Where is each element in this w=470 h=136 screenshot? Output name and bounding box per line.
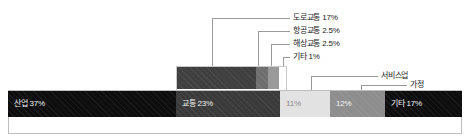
bar-segment-other-label: 기타 17% xyxy=(385,100,422,108)
leader-line-home-horizontal xyxy=(361,85,407,86)
transport-breakdown-bar xyxy=(177,67,286,89)
sub-segment-other[interactable] xyxy=(279,67,286,89)
leader-line-road-vertical xyxy=(212,18,213,66)
leader-line-service-horizontal xyxy=(311,76,378,77)
callout-label-service: 서비스업 xyxy=(381,72,408,80)
leader-line-air-horizontal xyxy=(258,31,290,32)
leader-line-air-vertical xyxy=(258,31,259,66)
sub-segment-sea[interactable] xyxy=(268,67,280,89)
callout-label-other-transport: 기타 1% xyxy=(293,53,320,61)
sub-segment-road[interactable] xyxy=(177,67,256,89)
bar-segment-service[interactable]: 11% xyxy=(280,91,330,117)
bar-segment-transport-label: 교통 23% xyxy=(176,100,213,108)
leader-line-other-transport-horizontal xyxy=(283,57,290,58)
bar-segment-transport[interactable]: 교통 23% xyxy=(176,91,280,117)
bar-segment-other[interactable]: 기타 17% xyxy=(385,91,462,117)
sub-segment-air[interactable] xyxy=(256,67,268,89)
leader-line-service-vertical xyxy=(311,76,312,91)
leader-line-sea-vertical xyxy=(271,44,272,66)
bar-segment-home[interactable]: 12% xyxy=(330,91,385,117)
bar-segment-industry-label: 산업 37% xyxy=(8,100,45,108)
stacked-bar-chart: 도로교통 17% 항공교통 2.5% 해상교통 2.5% 기타 1% 서비스업 … xyxy=(0,0,470,136)
bar-segment-service-label: 11% xyxy=(280,100,301,108)
leader-line-road-horizontal xyxy=(212,18,290,19)
callout-label-air: 항공교통 2.5% xyxy=(293,27,340,35)
callout-label-home: 가정 xyxy=(410,81,424,89)
callout-label-sea: 해상교통 2.5% xyxy=(293,40,340,48)
leader-line-sea-horizontal xyxy=(271,44,290,45)
bar-segment-industry[interactable]: 산업 37% xyxy=(8,91,176,117)
main-stacked-bar: 산업 37% 교통 23% 11% 12% 기타 17% xyxy=(8,91,462,117)
callout-label-road: 도로교통 17% xyxy=(293,14,338,22)
bar-segment-home-label: 12% xyxy=(330,100,351,108)
